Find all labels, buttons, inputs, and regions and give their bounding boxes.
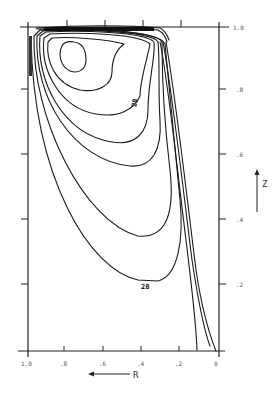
left-wall-dense-band: [29, 36, 32, 76]
contour-inner-core: [60, 42, 86, 72]
plot-frame: [18, 22, 229, 357]
tick-marks: [21, 20, 226, 351]
contour-4: [40, 31, 155, 142]
left-arrow-head-icon: [88, 372, 94, 377]
y-tick-label: .6: [236, 151, 244, 158]
x-tick-labels: 1.0 .8 .6 .4 .2 0: [21, 360, 218, 367]
y-tick-label: .2: [236, 281, 244, 288]
contour-figure: 28 28 1.0 .8 .6 .4 .2 0 1.0 .8 .6 .4 .2 …: [0, 0, 280, 397]
r-axis-indicator: R: [88, 370, 139, 380]
up-arrow-head-icon: [255, 169, 260, 175]
contour-labels: 28 28: [130, 98, 149, 291]
y-tick-label: 1.0: [233, 24, 244, 31]
x-tick-label: .8: [60, 360, 68, 367]
z-axis-label: Z: [262, 179, 268, 189]
y-tick-label: .8: [236, 86, 244, 93]
contour-plot: 28 28 1.0 .8 .6 .4 .2 0 1.0 .8 .6 .4 .2 …: [0, 0, 280, 397]
x-tick-label: 1.0: [21, 360, 32, 367]
contour-label-upper: 28: [130, 98, 139, 108]
contour-10: [166, 42, 216, 351]
y-tick-label: .4: [236, 216, 244, 223]
contour-5: [37, 30, 160, 166]
contour-8: [160, 42, 197, 350]
contour-6: [34, 29, 171, 236]
z-axis-indicator: Z: [255, 169, 269, 212]
y-tick-labels: 1.0 .8 .6 .4 .2: [233, 24, 244, 288]
r-axis-label: R: [133, 370, 139, 380]
contour-label-bottom: 28: [141, 283, 149, 291]
contour-lines: [29, 26, 216, 351]
x-tick-label: .6: [99, 360, 107, 367]
top-wall-dense-band: [44, 27, 154, 31]
x-tick-label: .4: [137, 360, 145, 367]
x-tick-label: 0: [214, 360, 218, 367]
x-tick-label: .2: [175, 360, 183, 367]
